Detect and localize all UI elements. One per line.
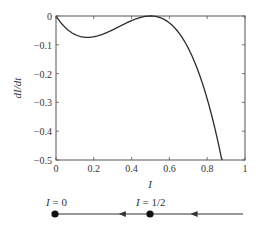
y-tick-label: −0.2 [34,69,52,80]
equilibrium-label: I = 1/2 [135,196,165,208]
y-tick-label: −0.1 [34,40,52,51]
x-axis-ticks: 00.20.40.60.81 [54,16,248,174]
y-tick-label: 0 [47,11,52,22]
y-tick-label: −0.3 [34,97,52,108]
equilibrium-dot [51,210,58,217]
arrow-left-icon [191,211,198,217]
arrow-left-icon [119,211,126,217]
y-tick-label: −0.5 [34,155,52,166]
plot-area [56,16,245,160]
x-tick-label: 0.2 [88,163,101,174]
x-tick-label: 0 [54,163,59,174]
x-tick-label: 1 [243,163,248,174]
phase-line: I = 0I = 1/2 [45,196,243,218]
x-axis-label: I [147,178,153,190]
data-curve [56,16,222,160]
y-axis-ticks: 0−0.1−0.2−0.3−0.4−0.5 [34,11,245,166]
y-tick-label: −0.4 [34,126,52,137]
equilibrium-dot [146,210,153,217]
x-tick-label: 0.8 [201,163,214,174]
x-tick-label: 0.4 [125,163,138,174]
chart: 00.20.40.60.81 0−0.1−0.2−0.3−0.4−0.5 I d… [0,0,260,227]
equilibrium-label: I = 0 [45,196,67,208]
y-axis-label: dI/dt [11,77,23,99]
x-tick-label: 0.6 [163,163,176,174]
